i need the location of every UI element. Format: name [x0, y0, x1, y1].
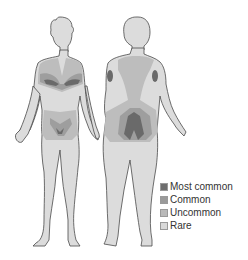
legend: Most common Common Uncommon Rare: [160, 180, 248, 232]
legend-item-rare: Rare: [160, 219, 248, 232]
swatch-uncommon: [160, 209, 168, 217]
swatch-most-common: [160, 183, 168, 191]
legend-label: Common: [170, 194, 211, 206]
legend-label: Rare: [170, 220, 192, 232]
legend-label: Uncommon: [170, 207, 221, 219]
legend-item-most-common: Most common: [160, 180, 248, 193]
swatch-common: [160, 196, 168, 204]
legend-label: Most common: [170, 181, 233, 193]
legend-item-uncommon: Uncommon: [160, 206, 248, 219]
legend-item-common: Common: [160, 193, 248, 206]
swatch-rare: [160, 222, 168, 230]
